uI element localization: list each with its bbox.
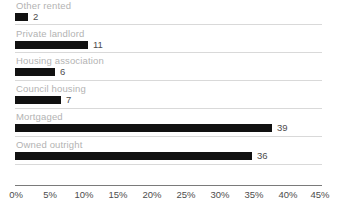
x-tick-label: 15%	[108, 189, 127, 201]
bar-value-label: 2	[33, 11, 38, 22]
x-axis-tick-labels: 0% 5% 10% 15% 20% 25% 30% 35% 40% 45%	[0, 189, 337, 205]
bar-chart: Other rented 2 Private landlord 11 Housi…	[0, 0, 337, 217]
bar-track: 39	[15, 124, 337, 132]
bar-track: 2	[15, 13, 337, 21]
x-tick-label: 35%	[244, 189, 263, 201]
x-tick-label: 20%	[142, 189, 161, 201]
category-label: Council housing	[16, 83, 86, 94]
bar	[15, 13, 28, 21]
bar-value-label: 11	[93, 39, 103, 50]
chart-row: Other rented 2	[0, 0, 337, 27]
bar	[15, 41, 88, 49]
chart-row: Mortgaged 39	[0, 111, 337, 138]
category-label: Private landlord	[16, 28, 84, 39]
chart-row: Owned outright 36	[0, 139, 337, 166]
chart-row: Private landlord 11	[0, 28, 337, 55]
plot-area: Other rented 2 Private landlord 11 Housi…	[0, 0, 337, 186]
gridline	[15, 52, 322, 53]
x-tick-label: 0%	[9, 189, 23, 201]
gridline	[15, 24, 322, 25]
category-label: Mortgaged	[16, 111, 63, 122]
category-label: Housing association	[16, 55, 104, 66]
bar-track: 7	[15, 96, 337, 104]
bar-value-label: 6	[60, 66, 65, 77]
x-tick-label: 30%	[210, 189, 229, 201]
x-tick-label: 45%	[310, 189, 329, 201]
bar-track: 36	[15, 152, 337, 160]
bar-value-label: 36	[257, 150, 268, 161]
gridline	[15, 108, 322, 109]
category-label: Other rented	[16, 0, 71, 11]
x-tick-label: 10%	[74, 189, 93, 201]
chart-row: Council housing 7	[0, 83, 337, 110]
gridline	[15, 80, 322, 81]
gridline	[15, 164, 322, 165]
bar	[15, 96, 61, 104]
bar	[15, 152, 252, 160]
bar-track: 11	[15, 41, 337, 49]
category-label: Owned outright	[16, 139, 83, 150]
bar	[15, 124, 272, 132]
x-axis-line	[15, 185, 322, 186]
bar	[15, 68, 55, 76]
bar-track: 6	[15, 68, 337, 76]
bar-value-label: 7	[66, 94, 71, 105]
bar-value-label: 39	[277, 122, 288, 133]
x-tick-label: 40%	[278, 189, 297, 201]
gridline	[15, 136, 322, 137]
x-tick-label: 5%	[43, 189, 57, 201]
x-tick-label: 25%	[176, 189, 195, 201]
chart-row: Housing association 6	[0, 55, 337, 82]
